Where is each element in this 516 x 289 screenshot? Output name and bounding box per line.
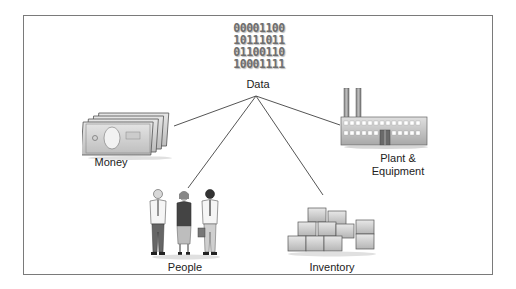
data-label: Data — [236, 78, 280, 91]
binary-data-icon: 00001100 10111011 01100110 10001111 — [226, 22, 292, 70]
plant-label-line2: Equipment — [363, 165, 433, 178]
factory-icon — [340, 88, 430, 150]
inventory-label: Inventory — [302, 261, 362, 274]
money-stack-icon — [82, 110, 174, 160]
person-icon — [150, 190, 166, 256]
binary-row: 10001111 — [226, 58, 292, 70]
people-group-icon — [148, 188, 224, 260]
connector-plant — [256, 96, 340, 125]
connector-people — [188, 96, 256, 188]
people-label: People — [160, 261, 210, 274]
person-icon — [177, 191, 191, 255]
connector-money — [174, 96, 256, 126]
person-icon — [198, 190, 218, 256]
plant-label-line1: Plant & — [363, 152, 433, 165]
connector-inventory — [256, 96, 323, 195]
money-label: Money — [86, 156, 136, 169]
boxes-icon — [284, 206, 380, 258]
